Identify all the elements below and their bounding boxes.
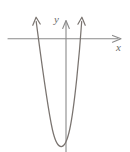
graph-canvas <box>0 0 130 152</box>
parabola-figure: y x <box>0 0 130 152</box>
parabola-curve <box>36 22 81 147</box>
y-axis-label: y <box>54 14 59 25</box>
x-axis-label: x <box>116 42 121 53</box>
